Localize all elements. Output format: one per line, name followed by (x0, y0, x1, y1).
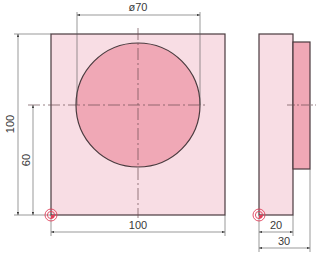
diameter-label: ø70 (129, 1, 148, 13)
side-boss (293, 42, 310, 169)
total-thickness-label: 30 (278, 235, 290, 247)
center-height-label: 60 (20, 154, 32, 166)
front-view: ø70 100 60 100 (4, 1, 225, 236)
side-view: 20 30 (253, 34, 316, 252)
side-plate (259, 34, 293, 215)
technical-drawing: ø70 100 60 100 (0, 0, 322, 263)
plate-thickness-label: 20 (270, 219, 282, 231)
height-label: 100 (4, 115, 16, 133)
width-label: 100 (129, 219, 147, 231)
width-dimension: 100 (51, 215, 225, 236)
center-height-dimension: 60 (20, 105, 33, 215)
height-dimension: 100 (4, 34, 51, 215)
